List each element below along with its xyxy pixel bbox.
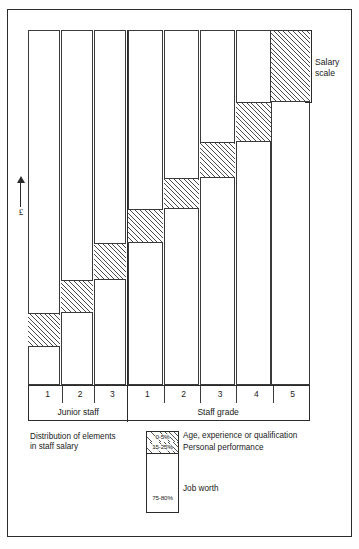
axis-tick-divider (273, 386, 274, 403)
axis-tick-divider (94, 386, 95, 403)
legend-swatch-personal-performance: 15-25% (147, 442, 178, 453)
bar-junior-staff-2 (61, 30, 93, 385)
axis-group-staff-grade: 1 2 3 4 5 Staff grade (127, 386, 309, 420)
legend-swatch-job-worth: 75-80% (147, 453, 178, 512)
bar-junior-staff-1 (28, 30, 60, 385)
salary-scale-label: Salary scale (315, 57, 339, 78)
axis-tick-divider (164, 386, 165, 403)
bar-staff-grade-3 (200, 30, 235, 385)
plot-area (28, 30, 310, 385)
tick-staff-grade-1: 1 (145, 387, 146, 402)
legend-caption-line1: Distribution of elements (30, 432, 142, 442)
salary-scale-bracket (305, 30, 312, 103)
legend-label-personal-performance: Personal performance (183, 443, 264, 453)
salary-band-staff-grade-1 (128, 209, 163, 243)
axis-tick-divider (236, 386, 237, 403)
tick-row-junior-staff: 1 2 3 (29, 386, 127, 403)
bar-staff-grade-4 (236, 30, 271, 385)
tick-staff-grade-3: 3 (218, 387, 219, 402)
legend-caption: Distribution of elements in staff salary (30, 432, 142, 452)
currency-symbol-label: £ (14, 207, 28, 218)
legend: Distribution of elements in staff salary… (28, 430, 328, 520)
y-axis-indicator: £ (14, 176, 28, 224)
legend-swatch-age-experience: 0-5% (147, 432, 178, 442)
legend-percent-personal-performance: 15-25% (152, 444, 174, 450)
axis-group-junior-staff: 1 2 3 Junior staff (29, 386, 127, 420)
arrow-shaft (20, 182, 21, 207)
salary-band-staff-grade-4 (236, 102, 271, 143)
axis-tick-divider (62, 386, 63, 403)
salary-scale-label-line2: scale (315, 68, 339, 79)
group-divider-line (127, 30, 128, 385)
bar-junior-staff-3 (94, 30, 126, 385)
salary-scale-figure: £ (0, 0, 359, 549)
legend-label-age-experience: Age, experience or qualification (183, 431, 297, 441)
x-axis-strip: 1 2 3 Junior staff 1 2 3 4 5 S (28, 385, 310, 421)
axis-group-label-staff-grade: Staff grade (127, 403, 309, 421)
legend-label-job-worth: Job worth (183, 484, 219, 494)
salary-band-staff-grade-2 (164, 178, 199, 210)
tick-staff-grade-4: 4 (254, 387, 255, 402)
tick-junior-staff-3: 3 (110, 387, 111, 402)
salary-band-staff-grade-3 (200, 142, 235, 177)
legend-percent-age-experience: 0-5% (155, 434, 170, 440)
tick-staff-grade-2: 2 (181, 387, 182, 402)
legend-percent-job-worth: 75-80% (152, 495, 174, 501)
axis-group-label-junior-staff: Junior staff (29, 403, 127, 421)
salary-band-junior-staff-3 (94, 243, 126, 280)
bar-staff-grade-1 (128, 30, 163, 385)
tick-row-staff-grade: 1 2 3 4 5 (127, 386, 309, 403)
legend-swatch-stack: 0-5% 15-25% 75-80% (146, 431, 179, 513)
bar-staff-grade-2 (164, 30, 199, 385)
salary-band-junior-staff-1 (28, 313, 60, 347)
tick-junior-staff-2: 2 (78, 387, 79, 402)
axis-tick-divider (200, 386, 201, 403)
tick-staff-grade-5: 5 (290, 387, 291, 402)
salary-band-junior-staff-2 (61, 280, 93, 314)
salary-scale-label-line1: Salary (315, 57, 339, 68)
tick-junior-staff-1: 1 (45, 387, 46, 402)
legend-caption-line2: in staff salary (30, 442, 142, 452)
